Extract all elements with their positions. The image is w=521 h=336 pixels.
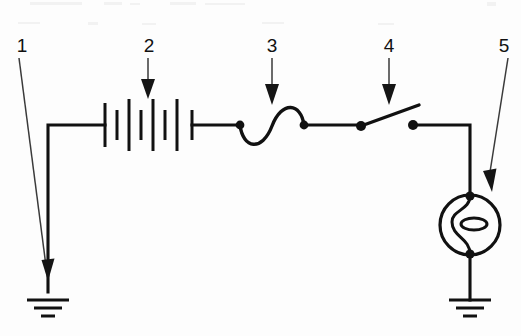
- fuse-terminal-left: [236, 121, 245, 130]
- arrowhead-5: [483, 169, 497, 193]
- callout-leader-4: [382, 58, 396, 105]
- callout-leader-2: [141, 58, 155, 99]
- callout-label-2: 2: [144, 35, 155, 56]
- callout-leader-5: [483, 58, 508, 192]
- arrowhead-2: [141, 79, 155, 99]
- lamp-filament-loop: [461, 218, 487, 230]
- callout-label-3: 3: [267, 35, 278, 56]
- lamp-terminal-bottom: [465, 249, 474, 258]
- lamp-envelope: [440, 195, 500, 255]
- callout-label-4: 4: [384, 35, 395, 56]
- switch-contact-terminal: [408, 120, 418, 130]
- circuit-schematic-canvas: 1 2 3 4 5: [0, 0, 521, 336]
- callout-label-5: 5: [499, 35, 510, 56]
- scan-artifact-strip: [18, 2, 496, 25]
- ground-symbol-left: [27, 300, 69, 316]
- wire-left-riser: [48, 125, 105, 292]
- callout-leader-3: [265, 58, 279, 105]
- ground-symbol-right: [449, 300, 491, 316]
- fuse-symbol: [236, 107, 309, 144]
- wire-switch-to-lamp: [413, 125, 470, 195]
- fuse-s-curve: [240, 107, 304, 144]
- battery-symbol: [105, 99, 192, 151]
- circuit-diagram-figure: 1 2 3 4 5: [0, 0, 521, 336]
- lamp-symbol: [440, 191, 500, 258]
- wire-network: [48, 125, 470, 300]
- lamp-terminal-top: [465, 191, 474, 200]
- fuse-terminal-right: [300, 121, 309, 130]
- switch-pivot-terminal: [356, 121, 366, 131]
- switch-symbol[interactable]: [356, 105, 419, 131]
- arrowhead-1: [42, 259, 55, 282]
- callout-label-1: 1: [17, 35, 28, 56]
- arrowhead-4: [382, 84, 396, 105]
- arrowhead-3: [265, 84, 279, 105]
